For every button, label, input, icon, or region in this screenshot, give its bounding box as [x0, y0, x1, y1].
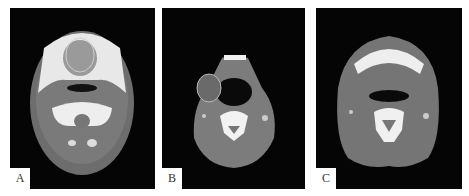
panel-label-c: C — [316, 168, 336, 189]
panel-label-b: B — [162, 168, 182, 189]
lesion-circle-a — [10, 8, 155, 189]
panel-c: C — [316, 8, 462, 189]
lesion-circle-b — [162, 8, 305, 189]
panel-label-a: A — [10, 168, 30, 189]
ct-image-c — [316, 8, 462, 189]
panel-b: B — [162, 8, 305, 189]
panel-a: A — [10, 8, 155, 189]
